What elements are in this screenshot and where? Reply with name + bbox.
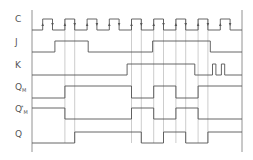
falling-edge-arrow-icon	[162, 23, 165, 26]
rising-edge-arrow-icon	[108, 23, 111, 26]
falling-edge-arrow-icon	[51, 23, 54, 26]
q-waveform	[32, 132, 242, 143]
rising-edge-arrow-icon	[130, 23, 133, 26]
signal-label-qm: QM	[15, 83, 26, 93]
rising-edge-arrow-icon	[175, 23, 178, 26]
falling-edge-arrow-icon	[118, 23, 121, 26]
falling-edge-arrow-icon	[207, 23, 210, 26]
signal-label-j: J	[15, 38, 18, 47]
signal-label-k: K	[15, 61, 21, 70]
signal-label-c: C	[15, 15, 21, 24]
falling-edge-arrow-icon	[96, 23, 99, 26]
falling-edge-arrow-icon	[140, 23, 143, 26]
qm-star-waveform	[32, 108, 242, 119]
k-waveform	[32, 64, 242, 75]
rising-edge-arrow-icon	[152, 23, 155, 26]
qm-waveform	[32, 86, 242, 98]
signal-label-q: Q	[15, 130, 22, 139]
j-waveform	[32, 41, 242, 52]
rising-edge-arrow-icon	[41, 23, 44, 26]
rising-edge-arrow-icon	[64, 23, 67, 26]
falling-edge-arrow-icon	[73, 23, 76, 26]
timing-diagram	[0, 0, 253, 160]
falling-edge-arrow-icon	[229, 23, 232, 26]
rising-edge-arrow-icon	[86, 23, 89, 26]
clock-waveform	[32, 19, 242, 30]
signal-label-qmstar: Q*M	[15, 105, 28, 115]
falling-edge-arrow-icon	[184, 23, 187, 26]
rising-edge-arrow-icon	[197, 23, 200, 26]
rising-edge-arrow-icon	[219, 23, 222, 26]
